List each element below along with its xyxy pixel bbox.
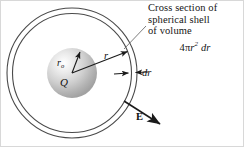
- charge-label: Q: [60, 76, 68, 88]
- caption-leader-line: [124, 26, 146, 49]
- thickness-arrow-left: [114, 73, 129, 74]
- thickness-label: dr: [142, 67, 151, 78]
- formula-prefix: 4π: [180, 42, 191, 53]
- formula-exponent: 2: [195, 40, 199, 48]
- inner-radius-subscript: o: [61, 62, 64, 69]
- caption-line-3: of volume: [148, 25, 242, 37]
- radius-label: r: [104, 50, 108, 61]
- field-label: E: [136, 111, 143, 122]
- inner-radius-label: ro: [57, 57, 64, 68]
- spherical-shell-diagram: Cross section of spherical shell of volu…: [0, 0, 244, 147]
- caption-line-1: Cross section of: [148, 2, 242, 14]
- caption-line-2: spherical shell: [148, 14, 242, 26]
- caption-text: Cross section of spherical shell of volu…: [148, 2, 242, 53]
- volume-formula: 4πr2 dr: [148, 39, 242, 53]
- formula-differential: dr: [201, 42, 211, 53]
